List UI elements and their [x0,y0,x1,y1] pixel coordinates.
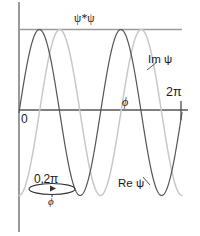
re-psi-label: Re ψ [118,178,144,190]
wavefunction-figure: ψ*ψ 0 2π ϕ Im ψ Re ψ 0,2π ϕ [0,0,200,236]
two-pi-label: 2π [166,86,182,99]
psi-squared-label: ψ*ψ [74,13,95,25]
plot-canvas [0,0,200,236]
phi-axis-label: ϕ [122,96,128,108]
origin-label: 0 [21,113,28,125]
im-psi-label: Im ψ [148,54,172,66]
phase-ring-phi-label: ϕ [48,196,54,207]
phase-ring-range-label: 0,2π [34,173,58,185]
phase-ring-arrowhead [50,186,56,192]
